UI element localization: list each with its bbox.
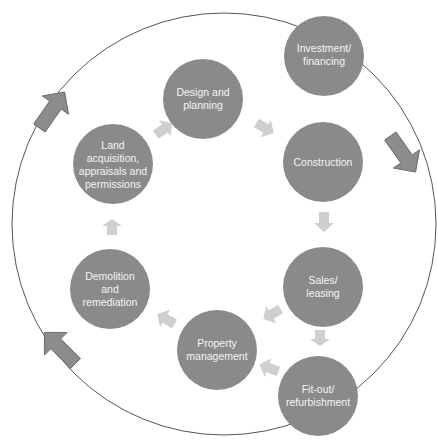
svg-text:refurbishment: refurbishment xyxy=(286,396,350,408)
flow-arrow-fitout-to-property-icon xyxy=(256,355,282,381)
svg-text:remediation: remediation xyxy=(83,296,138,308)
node-construction: Construction xyxy=(283,122,363,202)
flow-arrow-design-to-construction-icon xyxy=(251,114,278,141)
svg-text:Sales/: Sales/ xyxy=(308,274,337,286)
node-land-acquisition: Land acquisition, appraisals and permiss… xyxy=(73,124,153,204)
svg-text:and: and xyxy=(101,283,119,295)
svg-text:appraisals and: appraisals and xyxy=(79,165,147,177)
svg-text:management: management xyxy=(186,350,247,362)
real-estate-cycle-diagram: Investment/ financing Design and plannin… xyxy=(0,0,438,445)
flow-arrow-property-to-demolition-icon xyxy=(152,305,179,332)
svg-text:Design and: Design and xyxy=(176,86,229,98)
svg-text:acquisition,: acquisition, xyxy=(87,152,140,164)
outer-arrow-right-icon xyxy=(377,127,428,181)
flow-arrow-sales-to-fitout-icon xyxy=(310,330,330,346)
node-investment-financing: Investment/ financing xyxy=(284,16,364,96)
svg-text:Property: Property xyxy=(197,337,237,349)
node-design-planning: Design and planning xyxy=(163,59,243,139)
node-demolition-remediation: Demolition and remediation xyxy=(70,249,150,329)
flow-arrow-sales-to-property-icon xyxy=(258,300,285,327)
outer-arrow-bottom-left-icon xyxy=(33,321,87,375)
svg-text:planning: planning xyxy=(183,99,223,111)
flow-arrow-construction-to-sales-icon xyxy=(314,212,334,232)
node-property-management: Property management xyxy=(177,310,257,390)
svg-text:leasing: leasing xyxy=(306,287,339,299)
svg-text:Fit-out/: Fit-out/ xyxy=(302,383,335,395)
svg-text:Demolition: Demolition xyxy=(85,270,135,282)
svg-text:Land: Land xyxy=(101,139,125,151)
svg-text:financing: financing xyxy=(303,55,345,67)
svg-text:Investment/: Investment/ xyxy=(297,42,351,54)
node-sales-leasing: Sales/ leasing xyxy=(283,247,363,327)
outer-arrow-top-left-icon xyxy=(26,83,77,137)
svg-text:Construction: Construction xyxy=(294,156,353,168)
node-fitout-refurbishment: Fit-out/ refurbishment xyxy=(278,356,358,436)
flow-arrow-demolition-to-land-icon xyxy=(102,219,122,235)
svg-text:permissions: permissions xyxy=(85,178,141,190)
